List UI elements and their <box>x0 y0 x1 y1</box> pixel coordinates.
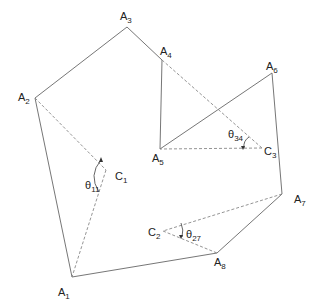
point-labels: A1A2A3A4A5A6A7A8C1C2C3θ11θ34θ27 <box>18 10 306 301</box>
angle-label-theta-11: θ11 <box>85 179 100 194</box>
arrowhead-icon <box>99 157 103 162</box>
point-label-c1: C1 <box>115 170 128 185</box>
angle-label-theta-27: θ27 <box>186 228 202 243</box>
point-label-a2: A2 <box>18 91 30 106</box>
edge-a2-a3 <box>35 27 127 98</box>
dashed-construction-lines <box>35 60 282 277</box>
edge-a5-a6 <box>160 73 272 149</box>
point-label-c3: C3 <box>264 145 277 160</box>
point-label-c2: C2 <box>148 226 161 241</box>
point-label-a4: A4 <box>160 45 172 60</box>
edge-a8-a1 <box>72 253 217 277</box>
edge-a4-a5 <box>160 60 162 149</box>
point-label-a1: A1 <box>58 286 70 301</box>
edge-a6-a7 <box>272 73 282 194</box>
dashed-line-a7-c2 <box>163 194 282 231</box>
dashed-line-c3-a5 <box>160 148 262 149</box>
diagram-svg: A1A2A3A4A5A6A7A8C1C2C3θ11θ34θ27 <box>0 0 319 305</box>
point-label-a3: A3 <box>120 10 132 25</box>
diagram-canvas: A1A2A3A4A5A6A7A8C1C2C3θ11θ34θ27 <box>0 0 319 305</box>
dashed-line-a2-c1 <box>35 98 106 170</box>
angle-arcs <box>94 137 249 239</box>
edge-a7-a8 <box>217 194 282 253</box>
dashed-line-a4-c3 <box>162 60 262 148</box>
point-label-a6: A6 <box>266 60 278 75</box>
edge-a1-a2 <box>35 98 72 277</box>
point-label-a5: A5 <box>152 152 164 167</box>
point-label-a7: A7 <box>294 193 306 208</box>
point-label-a8: A8 <box>214 256 226 271</box>
edge-a3-a4 <box>127 27 162 60</box>
